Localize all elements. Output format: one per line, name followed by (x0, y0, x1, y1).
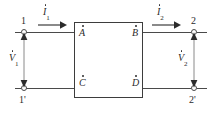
terminal-label-1prime: 1' (19, 95, 26, 105)
current-subscript-I1: 1 (46, 14, 50, 22)
voltage-subscript-V2: 2 (184, 60, 188, 68)
terminal-label-1: 1 (21, 16, 26, 26)
circuit-diagram-canvas: 1 1' 2 2' A B C D I1 I2 V1 V2 (0, 0, 215, 115)
node-label-D: D (132, 78, 139, 88)
node-label-A: A (79, 28, 85, 38)
current-arrow-I1 (38, 20, 68, 30)
voltage-subscript-V1: 1 (15, 60, 19, 68)
terminal-label-2prime: 2' (189, 95, 196, 105)
voltage-arrow-V2 (189, 31, 199, 89)
terminal-label-2: 2 (191, 16, 196, 26)
voltage-label-V2: V2 (178, 53, 188, 66)
wire-top-right (143, 32, 191, 33)
current-label-I1: I1 (43, 7, 50, 20)
current-arrow-I2 (152, 20, 182, 30)
node-label-B: B (132, 28, 138, 38)
wire-bottom-right (143, 88, 191, 89)
wire-top-left (24, 32, 74, 33)
voltage-arrow-V1 (19, 31, 29, 89)
voltage-label-V1: V1 (9, 53, 19, 66)
current-subscript-I2: 2 (160, 14, 164, 22)
current-label-I2: I2 (157, 7, 164, 20)
node-label-C: C (79, 78, 86, 88)
wire-bottom-left (24, 88, 74, 89)
